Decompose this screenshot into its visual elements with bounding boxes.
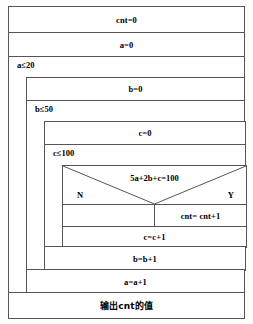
- decision-v-lines: [63, 166, 246, 204]
- decision-no-action-cell: [62, 204, 155, 227]
- statement-c-init: c=0: [44, 121, 246, 145]
- statement-output-cnt: 输出cnt的值: [8, 292, 245, 319]
- decision-branch-no-label: N: [77, 190, 83, 200]
- decision-branch-yes-label: Y: [228, 190, 234, 200]
- loop-outer-a-condition: a≤20: [17, 60, 34, 70]
- decision-condition: 5a+2b+c=100: [63, 173, 246, 183]
- statement-cnt-init: cnt=0: [8, 6, 245, 33]
- statement-a-init: a=0: [8, 32, 245, 57]
- decision-block: 5a+2b+c=100 N Y: [62, 165, 247, 205]
- statement-b-init: b=0: [26, 77, 245, 101]
- loop-inner-c-condition: c≤100: [53, 148, 74, 158]
- decision-yes-action-cell: cnt= cnt+1: [154, 204, 247, 227]
- loop-inner-c: c≤100 5a+2b+c=100 N Y cnt= cn: [44, 144, 246, 247]
- loop-middle-b: b≤50 c=0 c≤100 5a+2b+c=100 N Y: [26, 100, 245, 270]
- statement-b-increment: b=b+1: [44, 246, 246, 271]
- statement-a-increment: a=a+1: [26, 269, 245, 294]
- loop-outer-a: a≤20 b=0 b≤50 c=0 c≤100 5: [8, 56, 245, 293]
- statement-c-increment: c=c+1: [62, 226, 247, 248]
- ns-diagram-frame: cnt=0 a=0 a≤20 b=0 b≤50 c=0 c≤100: [8, 6, 245, 317]
- diagram-canvas: cnt=0 a=0 a≤20 b=0 b≤50 c=0 c≤100: [0, 0, 253, 324]
- loop-middle-b-condition: b≤50: [35, 104, 53, 114]
